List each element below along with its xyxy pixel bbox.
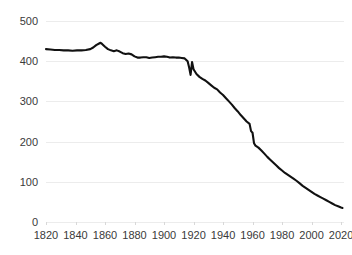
- y-tick-label-200: 200: [20, 136, 38, 148]
- y-tick-label-100: 100: [20, 176, 38, 188]
- y-tick-label-500: 500: [20, 15, 38, 27]
- y-tick-label-0: 0: [32, 216, 38, 228]
- x-tick-label-1880: 1880: [122, 229, 146, 241]
- x-tick-label-1860: 1860: [93, 229, 117, 241]
- y-tick-label-300: 300: [20, 95, 38, 107]
- chart-background: [0, 0, 352, 255]
- x-tick-label-1960: 1960: [240, 229, 264, 241]
- x-tick-label-1900: 1900: [152, 229, 176, 241]
- x-tick-label-1840: 1840: [63, 229, 87, 241]
- x-tick-label-2020: 2020: [329, 229, 352, 241]
- x-tick-label-2000: 2000: [299, 229, 323, 241]
- y-tick-label-400: 400: [20, 55, 38, 67]
- x-tick-label-1940: 1940: [211, 229, 235, 241]
- line-chart: 0100200300400500 18201840186018801900192…: [0, 0, 352, 255]
- x-axis-labels-group: 1820184018601880190019201940196019802000…: [34, 229, 352, 241]
- chart-container: 0100200300400500 18201840186018801900192…: [0, 0, 352, 255]
- x-tick-label-1820: 1820: [34, 229, 58, 241]
- x-tick-label-1980: 1980: [270, 229, 294, 241]
- x-tick-label-1920: 1920: [181, 229, 205, 241]
